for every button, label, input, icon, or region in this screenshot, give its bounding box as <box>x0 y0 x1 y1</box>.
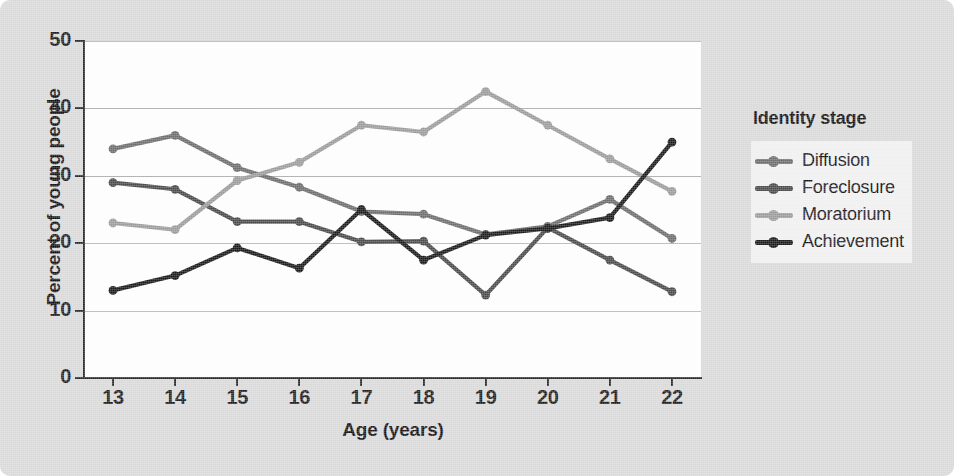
data-point <box>171 131 180 140</box>
series-foreclosure <box>109 178 677 299</box>
legend-label: Foreclosure <box>802 177 895 198</box>
data-point <box>605 195 614 204</box>
data-point <box>233 176 242 185</box>
legend-label: Moratorium <box>802 204 891 225</box>
data-point <box>233 217 242 226</box>
data-point <box>357 205 366 214</box>
y-tick-mark <box>75 40 83 42</box>
data-point <box>419 256 428 265</box>
legend-swatch-icon <box>755 208 793 222</box>
figure-panel: 01020304050 13141516171819202122 Percent… <box>0 0 954 476</box>
x-tick-label: 15 <box>215 386 259 409</box>
series-line <box>113 142 672 290</box>
data-point <box>668 187 677 196</box>
x-tick-mark <box>360 378 362 386</box>
data-point <box>481 87 490 96</box>
x-tick-mark <box>671 378 673 386</box>
x-tick-mark <box>423 378 425 386</box>
x-tick-mark <box>298 378 300 386</box>
x-tick-label: 19 <box>464 386 508 409</box>
legend-item-foreclosure[interactable]: Foreclosure <box>755 174 904 201</box>
data-point <box>295 158 304 167</box>
x-tick-label: 20 <box>526 386 570 409</box>
legend-item-moratorium[interactable]: Moratorium <box>755 201 904 228</box>
x-tick-mark <box>609 378 611 386</box>
data-point <box>543 121 552 130</box>
data-point <box>233 244 242 253</box>
data-point <box>295 217 304 226</box>
x-tick-label: 18 <box>402 386 446 409</box>
legend-item-diffusion[interactable]: Diffusion <box>755 147 904 174</box>
y-tick-mark <box>75 175 83 177</box>
data-point <box>481 291 490 300</box>
legend-swatch-icon <box>755 154 793 168</box>
data-point <box>295 183 304 192</box>
x-tick-mark <box>112 378 114 386</box>
data-point <box>481 231 490 240</box>
y-axis-label: Percent of young people <box>43 47 65 347</box>
data-point <box>668 234 677 243</box>
data-point <box>171 225 180 234</box>
legend-label: Diffusion <box>802 150 870 171</box>
y-tick-label: 0 <box>31 365 71 388</box>
x-tick-mark <box>485 378 487 386</box>
data-point <box>668 287 677 296</box>
data-point <box>419 210 428 219</box>
x-tick-label: 21 <box>588 386 632 409</box>
x-tick-label: 17 <box>339 386 383 409</box>
data-point <box>605 256 614 265</box>
legend-swatch-icon <box>755 181 793 195</box>
x-tick-mark <box>547 378 549 386</box>
x-tick-mark <box>174 378 176 386</box>
data-point <box>171 185 180 194</box>
data-point <box>109 219 118 228</box>
legend-label: Achievement <box>802 231 904 252</box>
x-tick-label: 13 <box>91 386 135 409</box>
data-point <box>109 286 118 295</box>
legend-items: DiffusionForeclosureMoratoriumAchievemen… <box>751 141 912 263</box>
x-axis-label: Age (years) <box>84 419 702 441</box>
data-point <box>295 264 304 273</box>
legend-title: Identity stage <box>753 108 936 129</box>
series-plot <box>84 41 701 378</box>
data-point <box>357 237 366 246</box>
x-tick-mark <box>236 378 238 386</box>
data-point <box>357 121 366 130</box>
data-point <box>419 237 428 246</box>
legend-item-achievement[interactable]: Achievement <box>755 228 904 255</box>
data-point <box>419 128 428 137</box>
data-point <box>605 213 614 222</box>
y-tick-mark <box>75 242 83 244</box>
data-point <box>109 178 118 187</box>
data-point <box>233 163 242 172</box>
y-tick-mark <box>75 107 83 109</box>
data-point <box>543 224 552 233</box>
legend-swatch-icon <box>755 235 793 249</box>
data-point <box>109 144 118 153</box>
x-tick-label: 22 <box>650 386 694 409</box>
data-point <box>605 155 614 164</box>
legend: Identity stage DiffusionForeclosureMorat… <box>751 108 936 263</box>
data-point <box>668 138 677 147</box>
y-tick-mark <box>75 310 83 312</box>
x-tick-label: 16 <box>277 386 321 409</box>
series-line <box>113 183 672 296</box>
data-point <box>171 271 180 280</box>
x-tick-label: 14 <box>153 386 197 409</box>
y-tick-mark <box>75 377 83 379</box>
